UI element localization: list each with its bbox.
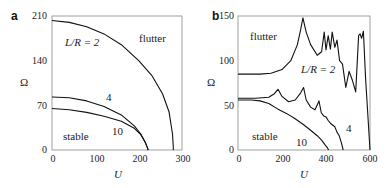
ytick: 140 [32, 55, 47, 66]
xtick: 0 [51, 153, 56, 164]
xtick: 100 [90, 153, 105, 164]
panel-a-stable-label: stable [63, 130, 89, 142]
ytick: 100 [219, 55, 234, 66]
panel-a-letter: a [11, 9, 18, 23]
xtick: 300 [176, 153, 191, 164]
ytick: 150 [219, 10, 234, 21]
panel-b-lr4-label: 4 [346, 122, 352, 134]
figure: a 210 140 70 0 0 100 200 300 Ω U flutter… [0, 0, 392, 188]
curve-10 [238, 100, 329, 150]
panel-a-lr10-label: 10 [112, 125, 124, 137]
panel-b-flutter-label: flutter [250, 30, 277, 42]
ytick: 0 [42, 144, 47, 155]
curve-4 [52, 97, 148, 150]
panel-a-flutter-label: flutter [139, 32, 166, 44]
panel-a-lr4-label: 4 [106, 91, 112, 103]
xtick: 400 [319, 153, 334, 164]
panel-b-lr10-label: 10 [296, 136, 308, 148]
panel-a-yticks: 210 140 70 0 [32, 10, 47, 155]
panel-b: b 150 100 50 0 0 200 400 600 Ω U flutter… [207, 9, 378, 180]
ytick: 50 [224, 100, 234, 111]
panel-b-xticks: 0 200 400 600 [237, 153, 378, 164]
panel-a-xticks: 0 100 200 300 [51, 153, 191, 164]
panel-a-xlabel: U [114, 168, 123, 180]
panel-b-xlabel: U [300, 168, 309, 180]
panel-b-stable-label: stable [252, 130, 278, 142]
xtick: 200 [133, 153, 148, 164]
panel-a: a 210 140 70 0 0 100 200 300 Ω U flutter… [11, 9, 191, 180]
panel-b-lr2-label: L/R = 2 [300, 63, 336, 75]
panel-a-ylabel: Ω [20, 76, 28, 88]
xtick: 600 [363, 153, 378, 164]
xtick: 200 [276, 153, 291, 164]
ytick: 70 [37, 100, 47, 111]
panel-b-ylabel: Ω [207, 76, 215, 88]
ytick: 210 [32, 10, 47, 21]
ytick: 0 [229, 144, 234, 155]
panel-b-yticks: 150 100 50 0 [219, 10, 234, 155]
panel-a-lr2-label: L/R = 2 [64, 36, 100, 48]
xtick: 0 [237, 153, 242, 164]
